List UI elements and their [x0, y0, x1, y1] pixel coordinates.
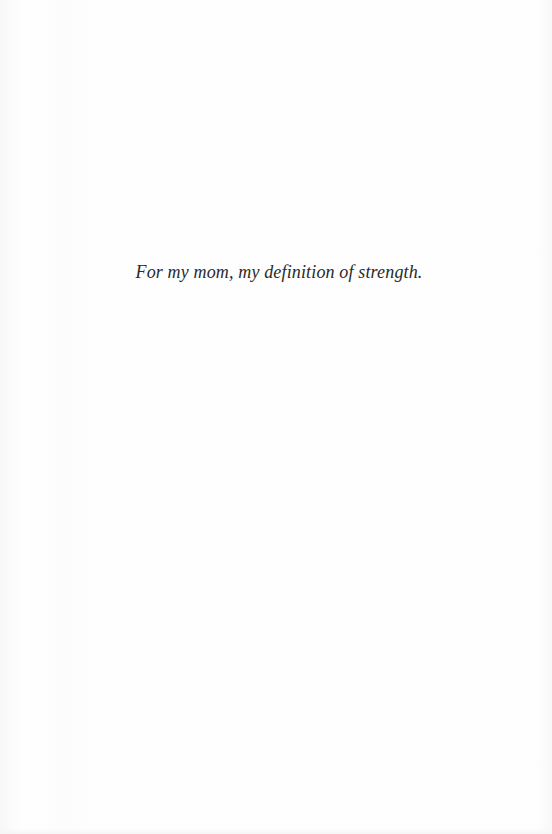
- scan-shadow-right: [534, 0, 552, 834]
- scan-shadow-left: [0, 0, 22, 834]
- scan-streak: [40, 0, 90, 834]
- book-page: For my mom, my definition of strength.: [0, 0, 552, 834]
- scan-shadow-bottom: [0, 828, 552, 834]
- dedication-text: For my mom, my definition of strength.: [0, 261, 552, 283]
